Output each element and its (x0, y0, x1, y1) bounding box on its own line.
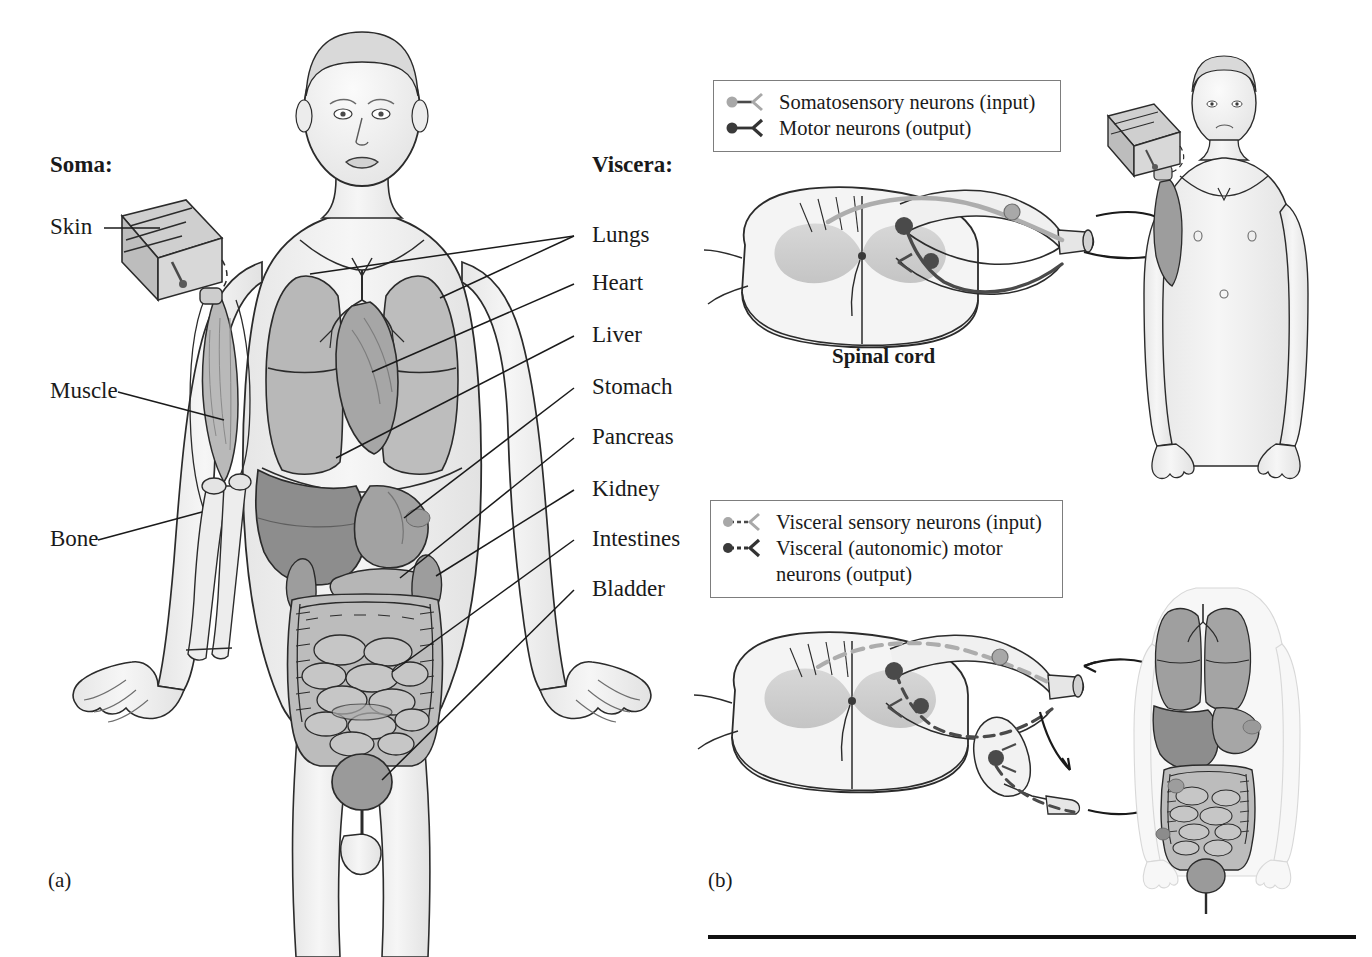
legend-row-motor: Motor neurons (output) (724, 115, 1050, 141)
legend-text-visceral-sensory: Visceral sensory neurons (input) (776, 509, 1042, 535)
label-bladder: Bladder (592, 576, 665, 602)
soma-heading: Soma: (50, 152, 113, 178)
small-torso-somatic (1108, 56, 1308, 479)
panel-a-id: (a) (48, 868, 71, 893)
legend-somatic: Somatosensory neurons (input) Motor neur… (713, 80, 1061, 152)
motor-key-icon (724, 115, 770, 141)
legend-text-motor: Motor neurons (output) (779, 115, 971, 141)
somatosensory-key-icon (724, 89, 770, 115)
label-kidney: Kidney (592, 476, 660, 502)
panel-a-body-figure (73, 32, 651, 957)
bottom-rule (708, 935, 1356, 939)
legend-text-somatosensory: Somatosensory neurons (input) (779, 89, 1035, 115)
legend-text-visceral-motor: Visceral (autonomic) motor neurons (outp… (776, 535, 1002, 587)
legend-row-visceral-sensory: Visceral sensory neurons (input) (721, 509, 1052, 535)
label-intestines: Intestines (592, 526, 680, 552)
legend-row-visceral-motor: Visceral (autonomic) motor neurons (outp… (721, 535, 1052, 587)
label-skin: Skin (50, 214, 92, 240)
legend-visceral: Visceral sensory neurons (input) Viscera… (710, 500, 1063, 598)
spinal-cord-label: Spinal cord (832, 344, 935, 369)
skin-block-callout (122, 200, 227, 304)
legend-row-somatosensory: Somatosensory neurons (input) (724, 89, 1050, 115)
viscera-heading: Viscera: (592, 152, 673, 178)
visceral-motor-key-icon (721, 535, 767, 561)
panel-b-id: (b) (708, 868, 733, 893)
small-torso-visceral (1134, 588, 1300, 914)
label-heart: Heart (592, 270, 643, 296)
visceral-sensory-key-icon (721, 509, 767, 535)
label-lungs: Lungs (592, 222, 650, 248)
panel-b-visceral (694, 588, 1300, 914)
label-liver: Liver (592, 322, 642, 348)
label-bone: Bone (50, 526, 99, 552)
label-pancreas: Pancreas (592, 424, 674, 450)
anatomy-illustration (0, 0, 1372, 957)
organs-group (256, 270, 462, 846)
label-stomach: Stomach (592, 374, 673, 400)
figure-canvas: Soma: Skin Muscle Bone Viscera: Lungs He… (0, 0, 1372, 957)
label-muscle: Muscle (50, 378, 118, 404)
